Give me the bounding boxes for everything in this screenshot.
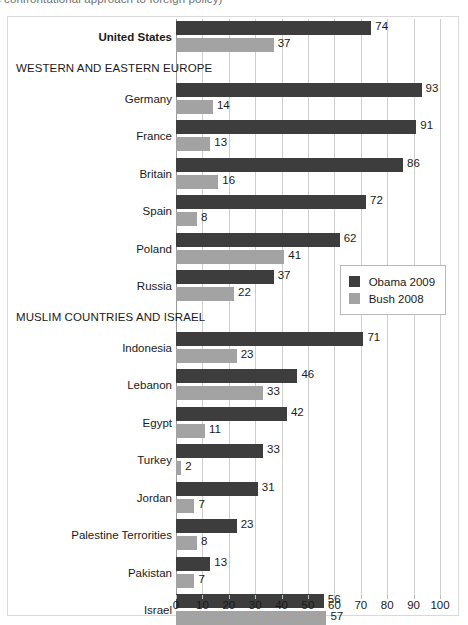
chart-row: Pakistan137 — [8, 555, 460, 593]
row-label: Britain — [2, 168, 172, 180]
bar-obama — [176, 407, 287, 421]
bar-value-obama: 71 — [367, 331, 380, 343]
row-bars: 137 — [176, 557, 460, 591]
chart-rows: United States7437WESTERN AND EASTERN EUR… — [8, 19, 460, 625]
bar-wrapper-bush: 8 — [176, 536, 460, 550]
bar-value-bush: 7 — [198, 498, 204, 510]
row-bars: 4633 — [176, 369, 460, 403]
section-header-row: WESTERN AND EASTERN EUROPE — [8, 57, 460, 81]
bar-bush — [176, 349, 237, 363]
bar-wrapper-bush: 13 — [176, 137, 460, 151]
bar-bush — [176, 250, 284, 264]
bar-obama — [176, 120, 416, 134]
caption-text: ...less confrontational approach to fore… — [0, 0, 223, 5]
bar-value-bush: 2 — [185, 460, 191, 472]
bar-value-obama: 72 — [370, 194, 383, 206]
row-label: United States — [2, 31, 172, 43]
chart-row: Poland6241 — [8, 231, 460, 269]
chart-row: Turkey332 — [8, 442, 460, 480]
x-axis: 0102030405060708090100 — [8, 595, 460, 617]
bar-wrapper-obama: 91 — [176, 120, 460, 134]
bar-bush — [176, 175, 218, 189]
bar-obama — [176, 519, 237, 533]
row-bars: 8616 — [176, 158, 460, 192]
bar-value-bush: 22 — [238, 286, 251, 298]
bar-value-obama: 91 — [420, 119, 433, 131]
bar-wrapper-obama: 93 — [176, 83, 460, 97]
bar-wrapper-obama: 86 — [176, 158, 460, 172]
bar-wrapper-obama: 23 — [176, 519, 460, 533]
bar-wrapper-bush: 14 — [176, 100, 460, 114]
row-label: Spain — [2, 205, 172, 217]
bar-value-obama: 13 — [214, 556, 227, 568]
chart-row: France9113 — [8, 118, 460, 156]
bar-bush — [176, 386, 263, 400]
row-label: Germany — [2, 93, 172, 105]
chart-row: Egypt4211 — [8, 405, 460, 443]
row-bars: 9314 — [176, 83, 460, 117]
bar-value-obama: 37 — [278, 269, 291, 281]
chart-legend: Obama 2009 Bush 2008 — [340, 265, 447, 315]
row-bars: 4211 — [176, 407, 460, 441]
bar-value-obama: 31 — [262, 481, 275, 493]
bar-value-bush: 11 — [209, 423, 221, 435]
bar-bush — [176, 536, 197, 550]
tick-label-40: 40 — [275, 599, 288, 611]
bar-wrapper-bush: 41 — [176, 250, 460, 264]
bar-obama — [176, 557, 210, 571]
chart-row: United States7437 — [8, 19, 460, 57]
row-bars: 6241 — [176, 233, 460, 267]
bar-value-bush: 8 — [201, 535, 207, 547]
bar-bush — [176, 287, 234, 301]
caption-strip: ...less confrontational approach to fore… — [0, 0, 468, 13]
bar-wrapper-obama: 71 — [176, 332, 460, 346]
chart-row: Lebanon4633 — [8, 367, 460, 405]
bar-wrapper-bush: 2 — [176, 461, 460, 475]
bar-wrapper-bush: 11 — [176, 424, 460, 438]
chart-row: Palestine Terrorities238 — [8, 517, 460, 555]
row-label: Lebanon — [2, 379, 172, 391]
legend-swatch-obama-icon — [349, 276, 360, 287]
tick-label-10: 10 — [196, 599, 209, 611]
legend-item-obama: Obama 2009 — [349, 273, 436, 290]
bar-wrapper-obama: 31 — [176, 482, 460, 496]
row-label: Russia — [2, 280, 172, 292]
tick-label-70: 70 — [354, 599, 367, 611]
legend-swatch-bush-icon — [349, 293, 360, 304]
bar-wrapper-obama: 62 — [176, 233, 460, 247]
tick-label-100: 100 — [430, 599, 449, 611]
row-label: France — [2, 130, 172, 142]
bar-value-obama: 62 — [344, 232, 357, 244]
bar-wrapper-obama: 33 — [176, 444, 460, 458]
bar-value-bush: 14 — [217, 99, 230, 111]
row-label: Poland — [2, 243, 172, 255]
bar-wrapper-bush: 8 — [176, 212, 460, 226]
bar-wrapper-bush: 7 — [176, 574, 460, 588]
chart-frame: United States7437WESTERN AND EASTERN EUR… — [7, 16, 459, 616]
bar-wrapper-bush: 33 — [176, 386, 460, 400]
bar-obama — [176, 332, 363, 346]
bar-wrapper-obama: 13 — [176, 557, 460, 571]
bar-wrapper-obama: 42 — [176, 407, 460, 421]
bar-bush — [176, 461, 181, 475]
row-label: Jordan — [2, 492, 172, 504]
bar-value-obama: 93 — [426, 82, 439, 94]
row-label: Palestine Terrorities — [2, 529, 172, 541]
bar-value-obama: 42 — [291, 406, 304, 418]
row-label: Egypt — [2, 417, 172, 429]
bar-wrapper-bush: 37 — [176, 38, 460, 52]
bar-value-obama: 74 — [375, 20, 388, 32]
bar-value-bush: 13 — [214, 136, 227, 148]
legend-label-obama: Obama 2009 — [369, 276, 436, 288]
row-bars: 238 — [176, 519, 460, 553]
bar-bush — [176, 212, 197, 226]
section-header-label: MUSLIM COUNTRIES AND ISRAEL — [16, 311, 205, 323]
row-bars: 7123 — [176, 332, 460, 366]
row-label: Turkey — [2, 454, 172, 466]
bar-wrapper-obama: 72 — [176, 195, 460, 209]
bar-bush — [176, 499, 194, 513]
bar-bush — [176, 38, 274, 52]
tick-label-80: 80 — [381, 599, 394, 611]
tick-label-60: 60 — [328, 599, 341, 611]
bar-value-bush: 23 — [241, 348, 254, 360]
